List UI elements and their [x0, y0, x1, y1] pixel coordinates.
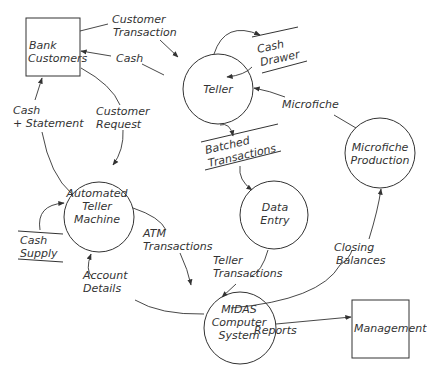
flow-teller-to-batched[interactable]	[220, 124, 233, 136]
atm-label-1: Automated	[65, 187, 128, 200]
batched-transactions-store[interactable]: Batched Transactions	[201, 124, 281, 170]
flow-customer-transaction[interactable]: Customer Transaction	[80, 13, 178, 57]
customer-request-label-2: Request	[96, 118, 142, 131]
flow-account-details[interactable]: Account Details	[82, 254, 204, 314]
flow-cash[interactable]: Cash	[81, 51, 164, 75]
teller-transactions-label-1: Teller	[213, 254, 244, 267]
midas-label-1: MIDAS	[221, 303, 257, 316]
microfiche-flow-label: Microfiche	[282, 98, 339, 111]
cash-supply-label-1: Cash	[20, 234, 47, 247]
flow-teller-transactions[interactable]: Teller Transactions	[213, 250, 283, 297]
cash-statement-label-1: Cash	[13, 104, 40, 117]
teller-process[interactable]: Teller	[183, 54, 253, 124]
flow-teller-to-cash-drawer[interactable]	[214, 30, 260, 54]
microfiche-production-label-1: Microfiche	[352, 141, 409, 154]
data-flow-diagram: Bank Customers Teller Cash Drawer Batche…	[0, 0, 427, 373]
reports-label: Reports	[254, 324, 297, 337]
account-details-label-1: Account	[82, 269, 128, 282]
atm-transactions-label-2: Transactions	[143, 240, 213, 253]
data-entry-label-2: Entry	[260, 214, 290, 227]
atm-transactions-label-1: ATM	[142, 227, 166, 240]
bank-customers-label-2: Customers	[28, 52, 87, 65]
flow-closing-balances[interactable]: Closing Balances	[231, 189, 386, 308]
customer-request-label-1: Customer	[96, 105, 151, 118]
microfiche-production-process[interactable]: Microfiche Production	[345, 118, 415, 188]
teller-label: Teller	[203, 83, 234, 96]
flow-cash-supply-to-atm[interactable]	[40, 203, 65, 230]
flow-atm-transactions[interactable]: ATM Transactions	[133, 208, 213, 285]
bank-customers-label-1: Bank	[29, 39, 57, 52]
atm-process[interactable]: Automated Teller Machine	[64, 182, 134, 252]
data-entry-process[interactable]: Data Entry	[240, 181, 308, 249]
bank-customers-entity[interactable]: Bank Customers	[26, 18, 87, 76]
flow-microfiche[interactable]: Microfiche	[254, 88, 356, 128]
customer-transaction-label-2: Transaction	[113, 26, 177, 39]
flow-cash-statement[interactable]: Cash + Statement	[13, 78, 84, 194]
flow-batched-to-data-entry[interactable]	[240, 166, 252, 190]
customer-transaction-label-1: Customer	[112, 13, 167, 26]
flow-customer-request[interactable]: Customer Request	[81, 68, 151, 165]
cash-supply-label-2: Supply	[20, 247, 58, 260]
closing-balances-label-1: Closing	[334, 241, 374, 254]
management-entity[interactable]: Management	[352, 300, 427, 358]
cash-drawer-store[interactable]: Cash Drawer	[252, 27, 307, 73]
cash-supply-store[interactable]: Cash Supply	[18, 231, 63, 262]
microfiche-production-label-2: Production	[351, 154, 410, 167]
atm-label-3: Machine	[74, 213, 120, 226]
atm-label-2: Teller	[82, 200, 113, 213]
account-details-label-2: Details	[83, 282, 121, 295]
cash-flow-label: Cash	[116, 52, 143, 65]
data-entry-label-1: Data	[262, 201, 289, 214]
management-label: Management	[354, 322, 427, 335]
closing-balances-label-2: Balances	[336, 254, 386, 267]
cash-statement-label-2: + Statement	[13, 117, 84, 130]
flow-reports[interactable]: Reports	[254, 317, 351, 337]
teller-transactions-label-2: Transactions	[213, 267, 283, 280]
